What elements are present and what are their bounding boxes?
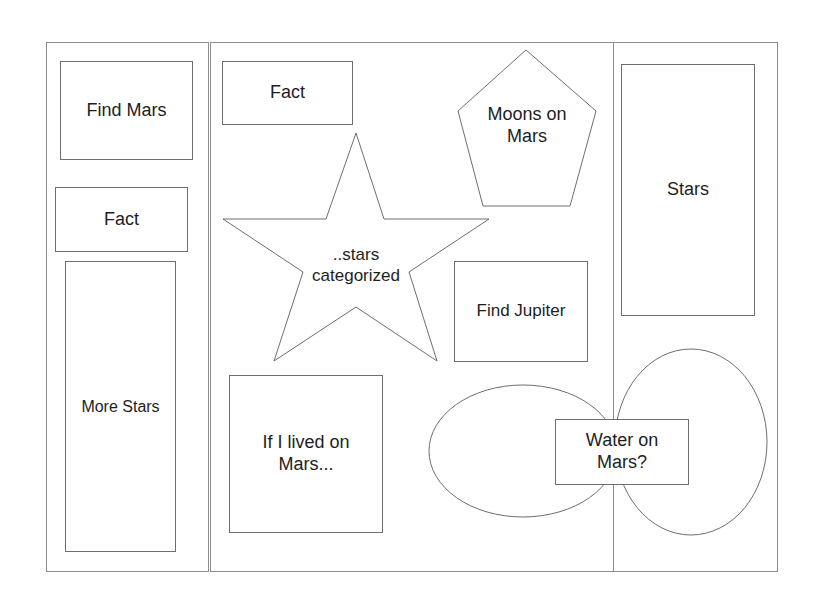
water-on-mars-label: Water on Mars?	[586, 430, 658, 473]
find-jupiter-box: Find Jupiter	[454, 261, 588, 362]
find-jupiter-label: Find Jupiter	[477, 301, 566, 321]
if-i-lived-on-mars-box: If I lived on Mars...	[229, 375, 383, 533]
shape-layer	[0, 0, 815, 600]
diagram-canvas: Find Mars Fact More Stars Fact Stars Moo…	[0, 0, 815, 600]
water-on-mars-box: Water on Mars?	[555, 419, 689, 485]
stars-categorized-star-shape	[223, 133, 489, 361]
if-i-lived-on-mars-label: If I lived on Mars...	[262, 432, 349, 475]
moons-pentagon-shape	[458, 50, 596, 206]
